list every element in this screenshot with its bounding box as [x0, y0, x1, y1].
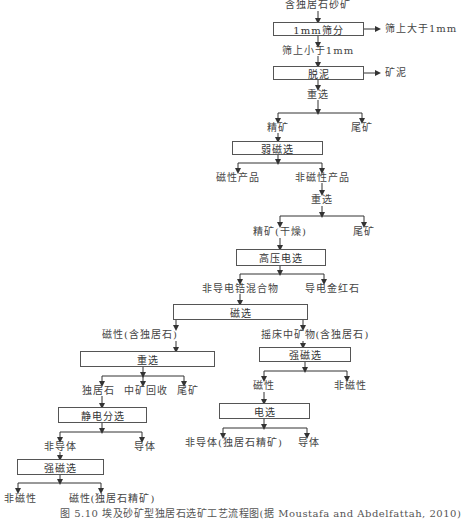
weak-magnetic-label: 弱磁选 — [261, 141, 294, 156]
screening-label: 1mm筛分 — [293, 22, 343, 37]
middlings-recovery-label: 中矿回收 — [124, 385, 168, 397]
conductive-rutile-label: 导电金红石 — [305, 283, 360, 295]
magnetic-separation-box: 磁选 — [173, 304, 308, 320]
electric-separation-label: 电选 — [254, 404, 276, 419]
screening-undersize-label: 筛上小于1mm — [282, 45, 354, 57]
input-ore-label: 含独居石砂矿 — [285, 0, 351, 11]
electrostatic-conductor-label: 导体 — [134, 441, 156, 453]
desliming-label: 脱泥 — [308, 66, 330, 81]
gravity-2-tailings-label: 尾矿 — [353, 226, 375, 238]
figure-caption: 图 5.10 埃及砂矿型独居石选矿工艺流程图(据 Moustafa and Ab… — [60, 508, 461, 520]
strong-magnetic-left-label: 强磁选 — [44, 460, 77, 475]
screening-oversize-label: 筛上大于1mm — [385, 23, 457, 35]
strong-magnetic-right-box: 强磁选 — [259, 347, 351, 362]
dried-concentrate-label: 精矿(干燥) — [253, 226, 307, 238]
monazite-label: 独居石 — [82, 385, 115, 397]
desliming-box: 脱泥 — [273, 66, 364, 80]
electrostatic-nonconductor-label: 非导体 — [44, 441, 77, 453]
slime-label: 矿泥 — [385, 67, 407, 79]
gravity-3-tailings-label: 尾矿 — [177, 385, 199, 397]
screening-box: 1mm筛分 — [273, 22, 364, 36]
gravity-1-concentrate-label: 精矿 — [267, 122, 289, 134]
hv-electrostatic-box: 高压电选 — [236, 249, 326, 266]
electrostatic-box: 静电分选 — [58, 407, 147, 423]
nonmagnetic-product-label: 非磁性产品 — [295, 172, 350, 184]
nonconductor-monazite-concentrate-label: 非导体(独居石精矿) — [185, 437, 283, 449]
hv-electrostatic-label: 高压电选 — [259, 250, 303, 265]
monazite-concentrate-magnetic-label: 磁性(独居石精矿) — [69, 493, 156, 505]
table-middlings-label: 摇床中矿物(含独居石) — [261, 329, 370, 341]
magnetic-separation-label: 磁选 — [230, 305, 252, 320]
nonconductive-zircon-mix-label: 非导电锆混合物 — [202, 283, 279, 295]
electrostatic-label: 静电分选 — [81, 408, 125, 423]
strong-magnetic-right-label: 强磁选 — [289, 347, 322, 362]
gravity-3-box: 重选 — [80, 351, 215, 367]
right-nonmagnetic-label: 非磁性 — [334, 380, 367, 392]
electric-separation-box: 电选 — [219, 403, 310, 419]
gravity-2-label: 重选 — [311, 194, 333, 206]
weak-magnetic-box: 弱磁选 — [232, 141, 323, 155]
right-magnetic-label: 磁性 — [253, 380, 275, 392]
magnetic-monazite-label: 磁性(含独居石) — [102, 329, 178, 341]
magnetic-product-label: 磁性产品 — [216, 172, 260, 184]
gravity-1-tailings-label: 尾矿 — [351, 122, 373, 134]
gravity-1-label: 重选 — [307, 89, 329, 101]
left-nonmagnetic-label: 非磁性 — [4, 493, 37, 505]
gravity-3-label: 重选 — [137, 352, 159, 367]
strong-magnetic-left-box: 强磁选 — [17, 459, 104, 475]
electric-conductor-label: 导体 — [298, 437, 320, 449]
